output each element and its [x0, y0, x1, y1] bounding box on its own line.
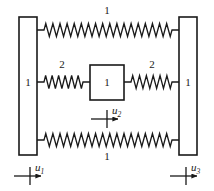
- left-wall: 1: [19, 17, 37, 155]
- right-wall: 1: [179, 17, 197, 155]
- right-wall-label: 1: [185, 76, 191, 88]
- spring-top-label: 1: [104, 4, 110, 16]
- u1-subscript: 1: [41, 167, 45, 176]
- diagram-canvas: 1 1 1 1 2 2 1: [0, 0, 214, 191]
- u1-label: u1: [35, 161, 44, 176]
- u2-subscript: 2: [118, 110, 122, 119]
- displacement-u2: u2: [91, 104, 122, 128]
- displacement-u3: u3: [170, 161, 201, 185]
- spring-middle-left: 2: [37, 58, 90, 89]
- spring-middle-left-label: 2: [59, 58, 65, 70]
- center-mass-label: 1: [104, 76, 110, 88]
- spring-mass-diagram: 1 1 1 1 2 2 1: [0, 0, 214, 191]
- spring-middle-right-label: 2: [149, 58, 155, 70]
- spring-bottom-path: [37, 134, 179, 147]
- displacement-u1: u1: [14, 161, 44, 185]
- center-mass: 1: [90, 65, 124, 100]
- u3-subscript: 3: [196, 167, 201, 176]
- spring-middle-right: 2: [124, 58, 179, 89]
- u2-label: u2: [112, 104, 122, 119]
- spring-bottom: 1: [37, 134, 179, 163]
- spring-bottom-label: 1: [104, 150, 110, 162]
- spring-top-path: [37, 24, 179, 37]
- spring-top: 1: [37, 4, 179, 37]
- left-wall-label: 1: [25, 76, 31, 88]
- u3-label: u3: [191, 161, 201, 176]
- spring-middle-left-path: [37, 76, 90, 89]
- spring-middle-right-path: [124, 76, 179, 89]
